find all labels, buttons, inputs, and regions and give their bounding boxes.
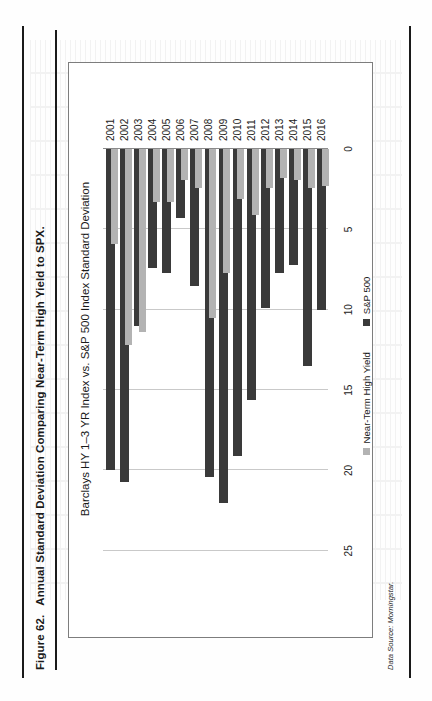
bar-group xyxy=(117,149,131,583)
figure-title: Figure 62.Annual Standard Deviation Comp… xyxy=(34,30,46,670)
value-tick-label: 10 xyxy=(343,304,354,315)
chart-legend: Near-Term High YieldS&P 500 xyxy=(361,149,372,583)
figure-title-text: Annual Standard Deviation Comparing Near… xyxy=(34,226,46,605)
bar-group xyxy=(272,149,286,583)
bar-group xyxy=(258,149,272,583)
category-tick-label: 2011 xyxy=(245,119,256,141)
category-tick-label: 2010 xyxy=(231,119,242,141)
value-tick-label: 20 xyxy=(343,465,354,476)
bar-group xyxy=(145,149,159,583)
rotated-figure-canvas: Figure 62.Annual Standard Deviation Comp… xyxy=(30,30,402,670)
plot-area: 2001200220032004200520062007200820092010… xyxy=(103,149,328,583)
page-rule-left xyxy=(22,26,24,678)
legend-swatch xyxy=(363,448,370,455)
bar-near-term-high-yield xyxy=(322,149,329,186)
bar-group xyxy=(103,149,117,583)
category-tick-label: 2002 xyxy=(119,119,130,141)
bar-group xyxy=(131,149,145,583)
bar-group xyxy=(187,149,201,583)
bar-group xyxy=(314,149,328,583)
bar-group xyxy=(300,149,314,583)
chart-container: Barclays HY 1–3 YR Index vs. S&P 500 Ind… xyxy=(68,62,373,638)
bar-group xyxy=(286,149,300,583)
category-tick-label: 2005 xyxy=(161,119,172,141)
source-note: Data Source: Morningstar. xyxy=(386,30,395,670)
category-tick-label: 2016 xyxy=(315,119,326,141)
bar-group xyxy=(159,149,173,583)
page-rule-right xyxy=(409,26,411,678)
category-tick-label: 2012 xyxy=(259,119,270,141)
category-tick-label: 2003 xyxy=(133,119,144,141)
legend-label: Near-Term High Yield xyxy=(361,352,372,443)
value-tick-label: 15 xyxy=(343,385,354,396)
category-tick-label: 2014 xyxy=(287,119,298,141)
scanned-page: Figure 62.Annual Standard Deviation Comp… xyxy=(0,0,432,701)
bar-group xyxy=(216,149,230,583)
figure-number: Figure 62. xyxy=(34,615,46,670)
legend-label: S&P 500 xyxy=(361,277,372,315)
category-tick-label: 2015 xyxy=(301,119,312,141)
category-tick-label: 2004 xyxy=(147,119,158,141)
legend-swatch xyxy=(363,319,370,326)
category-tick-label: 2008 xyxy=(203,119,214,141)
category-tick-label: 2007 xyxy=(189,119,200,141)
category-tick-label: 2013 xyxy=(273,119,284,141)
chart-subtitle: Barclays HY 1–3 YR Index vs. S&P 500 Ind… xyxy=(79,61,91,637)
category-tick-label: 2001 xyxy=(105,119,116,141)
category-tick-label: 2009 xyxy=(217,119,228,141)
legend-item: S&P 500 xyxy=(361,277,372,327)
value-tick-label: 25 xyxy=(343,545,354,556)
bar-group xyxy=(201,149,215,583)
value-tick-label: 5 xyxy=(343,227,354,233)
value-tick-label: 0 xyxy=(343,146,354,152)
category-tick-label: 2006 xyxy=(175,119,186,141)
bar-group xyxy=(244,149,258,583)
title-divider xyxy=(55,30,57,670)
bar-group xyxy=(230,149,244,583)
bar-group xyxy=(173,149,187,583)
legend-item: Near-Term High Yield xyxy=(361,352,372,455)
